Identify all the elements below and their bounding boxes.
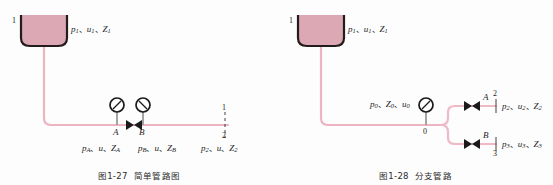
figure-branched-pipeline: 1 p1、u1、Z1 p0、Z0、u0 0 A B 2 3 p2、u2、Z2 p… [278, 0, 553, 185]
pipe-branch-upper [441, 106, 496, 125]
junction-label: p0、Z0、u0 [370, 98, 410, 109]
junction-label-u-sub: 0 [407, 102, 410, 109]
section-b-z-sub: B [172, 146, 176, 153]
section-2-z-sub: 2 [234, 146, 237, 153]
branch-upper-end-marker: 2 [493, 89, 497, 98]
branch-lower-z-sub: 3 [539, 142, 542, 149]
pipe-main-edge [321, 46, 441, 125]
tank-label: p1、u1、Z1 [348, 23, 388, 34]
caption-number-left: 图1-27 [98, 171, 128, 181]
tank-marker: 1 [12, 16, 16, 25]
tank-label: p1、u1、Z1 [71, 23, 111, 34]
pipe-main-edge [44, 46, 228, 125]
section-label-a: pA、u、ZA [82, 142, 120, 153]
section-label-2: p2、u、Z2 [201, 142, 238, 153]
caption-title-left: 简单管路图 [134, 171, 181, 181]
tank-vessel [298, 15, 344, 46]
pipe-main [44, 46, 228, 125]
valve-b-left-triangle [464, 139, 472, 149]
simple-pipeline-drawing [0, 0, 278, 165]
caption-number-right: 图1-28 [379, 171, 409, 181]
tank-label-z-sub: 1 [108, 27, 111, 34]
valve-ab-left-triangle [126, 120, 134, 130]
valve-a-left-triangle [464, 101, 472, 111]
point-marker-b: B [139, 127, 145, 137]
valve-a-right-triangle [472, 101, 480, 111]
tank-vessel [21, 15, 67, 46]
figure-page: 1 p1、u1、Z1 A B pA、u、ZA pB、u、ZB p2、u、Z2 1… [0, 0, 553, 185]
junction-marker: 0 [423, 127, 427, 136]
caption-title-right: 分支管路 [415, 171, 452, 181]
pipe-main [321, 46, 441, 125]
valve-b-right-triangle [472, 139, 480, 149]
branch-lower-label: p3、u3、Z3 [502, 138, 542, 149]
tank-marker: 1 [289, 16, 293, 25]
valve-label-b: B [483, 130, 489, 140]
figure-caption-left: 图1-27简单管路图 [0, 169, 278, 181]
section-a-z-sub: A [116, 146, 120, 153]
outlet-marker-top: 1 [222, 103, 226, 112]
point-marker-a: A [113, 127, 119, 137]
valve-label-a: A [483, 92, 489, 102]
branch-upper-label: p2、u2、Z2 [502, 100, 542, 111]
section-label-b: pB、u、ZB [138, 142, 176, 153]
outlet-marker-bottom: 2 [222, 131, 226, 140]
figure-caption-right: 图1-28分支管路 [278, 169, 553, 181]
branch-lower-end-marker: 3 [493, 149, 497, 158]
tank-label-z-sub: 1 [385, 27, 388, 34]
figure-simple-pipeline: 1 p1、u1、Z1 A B pA、u、ZA pB、u、ZB p2、u、Z2 1… [0, 0, 278, 185]
branch-upper-z-sub: 2 [539, 104, 542, 111]
